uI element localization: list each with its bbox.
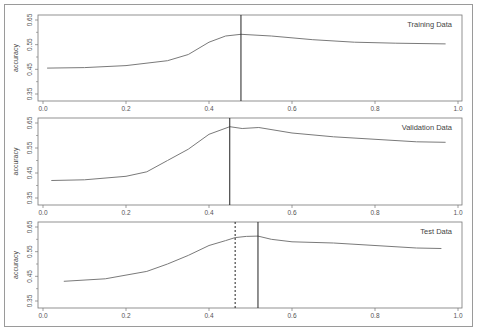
y-tick-label: 0.55 bbox=[26, 38, 33, 51]
x-tick-label: 0.6 bbox=[287, 209, 296, 216]
x-tick-label: 0.4 bbox=[204, 209, 213, 216]
x-tick-label: 0.6 bbox=[287, 312, 296, 319]
panel-title: Training Data bbox=[407, 20, 453, 29]
y-tick-label: 0.35 bbox=[26, 294, 33, 307]
x-tick-label: 1.0 bbox=[453, 209, 462, 216]
y-axis-label: accuracy bbox=[12, 147, 20, 176]
x-tick-label: 0.4 bbox=[204, 312, 213, 319]
x-tick-label: 0.8 bbox=[370, 209, 379, 216]
plot-box bbox=[38, 222, 462, 308]
x-tick-label: 0.8 bbox=[370, 312, 379, 319]
panel-test-data: 0.00.20.40.60.81.00.350.450.550.65accura… bbox=[12, 220, 463, 319]
accuracy-curve bbox=[51, 127, 445, 181]
panel-training-data: 0.00.20.40.60.81.00.350.450.550.65accura… bbox=[12, 13, 463, 112]
x-tick-label: 0.2 bbox=[121, 312, 130, 319]
x-tick-label: 0.6 bbox=[287, 105, 296, 112]
y-tick-label: 0.65 bbox=[26, 220, 33, 233]
chart-figure: 0.00.20.40.60.81.00.350.450.550.65accura… bbox=[0, 0, 477, 332]
x-tick-label: 1.0 bbox=[453, 312, 462, 319]
y-tick-label: 0.35 bbox=[26, 191, 33, 204]
x-tick-label: 0.8 bbox=[370, 105, 379, 112]
y-tick-label: 0.65 bbox=[26, 13, 33, 26]
x-tick-label: 0.0 bbox=[38, 312, 47, 319]
x-tick-label: 0.2 bbox=[121, 209, 130, 216]
y-tick-label: 0.55 bbox=[26, 245, 33, 258]
x-tick-label: 0.2 bbox=[121, 105, 130, 112]
y-tick-label: 0.45 bbox=[26, 63, 33, 76]
panel-validation-data: 0.00.20.40.60.81.00.350.450.550.65accura… bbox=[12, 116, 463, 216]
y-axis-label: accuracy bbox=[12, 250, 20, 279]
panel-title: Validation Data bbox=[402, 123, 453, 132]
plot-box bbox=[38, 15, 462, 101]
y-axis-label: accuracy bbox=[12, 43, 20, 72]
accuracy-curve bbox=[64, 236, 442, 281]
y-tick-label: 0.45 bbox=[26, 166, 33, 179]
y-tick-label: 0.55 bbox=[26, 141, 33, 154]
panel-title: Test Data bbox=[420, 227, 453, 236]
x-tick-label: 0.0 bbox=[38, 209, 47, 216]
x-tick-label: 1.0 bbox=[453, 105, 462, 112]
y-tick-label: 0.45 bbox=[26, 270, 33, 283]
x-tick-label: 0.4 bbox=[204, 105, 213, 112]
y-tick-label: 0.35 bbox=[26, 87, 33, 100]
x-tick-label: 0.0 bbox=[38, 105, 47, 112]
y-tick-label: 0.65 bbox=[26, 116, 33, 129]
accuracy-curve bbox=[47, 34, 446, 68]
plot-box bbox=[38, 118, 462, 205]
